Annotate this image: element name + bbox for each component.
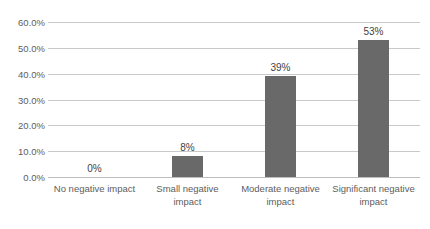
y-axis-tick-label: 60.0% <box>1 17 45 28</box>
bar-group: 0% <box>48 22 141 177</box>
bar-value-label: 53% <box>327 26 420 37</box>
y-axis-tick-label: 50.0% <box>1 42 45 53</box>
bar-chart: 60.0%50.0%40.0%30.0%20.0%10.0%0.0% 0%8%3… <box>0 0 430 229</box>
bar-group: 8% <box>141 22 234 177</box>
axis-baseline <box>48 177 420 178</box>
y-axis-tick-label: 0.0% <box>1 172 45 183</box>
y-axis-tick-label: 30.0% <box>1 94 45 105</box>
bar-group: 39% <box>234 22 327 177</box>
bar-group: 53% <box>327 22 420 177</box>
bar-value-label: 8% <box>141 142 234 153</box>
x-axis-label: Significant negative impact <box>327 182 420 208</box>
bar[interactable] <box>265 76 296 177</box>
bar-value-label: 39% <box>234 62 327 73</box>
bar[interactable] <box>172 156 203 177</box>
y-axis-tick-label: 40.0% <box>1 68 45 79</box>
x-axis-label: Moderate negative impact <box>234 182 327 208</box>
x-axis-label: Small negative impact <box>141 182 234 208</box>
y-axis-tick-label: 20.0% <box>1 120 45 131</box>
bar-value-label: 0% <box>48 163 141 174</box>
x-axis-category-labels: No negative impactSmall negative impactM… <box>48 182 420 208</box>
y-axis-tick-label: 10.0% <box>1 146 45 157</box>
bar[interactable] <box>358 40 389 177</box>
bar-series: 0%8%39%53% <box>48 22 420 177</box>
x-axis-label: No negative impact <box>48 182 141 208</box>
